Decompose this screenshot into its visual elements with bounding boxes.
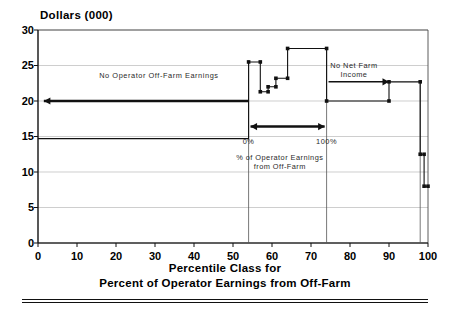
data-point-marker — [274, 85, 278, 89]
data-point-marker — [418, 80, 422, 84]
percent-off-farm-range-arrow-head — [318, 123, 325, 130]
annotation-pct-operator-earnings-line2: from Off-Farm — [170, 162, 390, 171]
x-tick-label: 30 — [140, 250, 170, 262]
data-point-marker — [325, 99, 329, 103]
percent-off-farm-range-arrow-head — [251, 123, 257, 130]
data-point-marker — [422, 184, 426, 188]
y-tick-label: 5 — [8, 201, 34, 213]
x-tick-label: 70 — [296, 250, 326, 262]
annotation-no-operator-off-farm-earnings: No Operator Off-Farm Earnings — [49, 71, 269, 80]
x-axis-label-line1: Percentile Class for — [0, 262, 450, 274]
annotation-no-net-farm-income-line2: Income — [244, 70, 450, 79]
data-point-marker — [259, 90, 263, 94]
y-tick-label: 20 — [8, 95, 34, 107]
data-point-marker — [325, 47, 329, 51]
x-tick-label: 100 — [413, 250, 443, 262]
annotation-no-net-farm-income-line1: No Net Farm — [244, 61, 450, 70]
annotation-pct-operator-earnings-line1: % of Operator Earnings — [170, 153, 390, 162]
x-tick-label: 80 — [335, 250, 365, 262]
annotation-scale-100pct: 100% — [217, 137, 437, 146]
y-tick-label: 0 — [8, 237, 34, 249]
x-tick-label: 10 — [62, 250, 92, 262]
x-tick-label: 40 — [179, 250, 209, 262]
x-tick-label: 90 — [374, 250, 404, 262]
data-point-marker — [387, 99, 391, 103]
y-tick-label: 10 — [8, 166, 34, 178]
y-tick-label: 30 — [8, 24, 34, 36]
x-tick-label: 20 — [101, 250, 131, 262]
data-point-marker — [266, 90, 270, 94]
chart-figure: Dollars (000) 30 25 20 15 10 5 0 0 10 20… — [0, 0, 450, 309]
footer-rule-thin — [22, 302, 428, 303]
x-tick-label: 50 — [218, 250, 248, 262]
x-tick-label: 0 — [23, 250, 53, 262]
data-point-marker — [422, 152, 426, 156]
data-point-marker — [418, 152, 422, 156]
y-tick-label: 15 — [8, 130, 34, 142]
data-point-marker — [286, 47, 290, 51]
no-operator-off-farm-arrow-head — [44, 97, 51, 104]
data-point-marker — [426, 184, 430, 188]
data-point-marker — [266, 85, 270, 89]
no-net-farm-income-arrow-head — [383, 78, 390, 85]
y-tick-label: 25 — [8, 59, 34, 71]
x-tick-label: 60 — [257, 250, 287, 262]
x-axis-label-line2: Percent of Operator Earnings from Off-Fa… — [0, 277, 450, 289]
footer-rule — [22, 299, 428, 300]
